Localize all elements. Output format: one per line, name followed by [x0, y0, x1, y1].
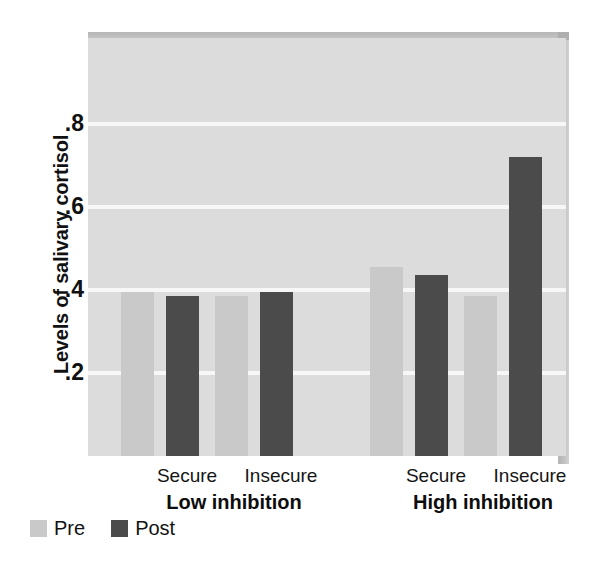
- legend-item-pre[interactable]: Pre: [30, 518, 85, 538]
- y-tick-label: .4: [44, 278, 84, 301]
- bar-high-inhibition-insecure-pre: [464, 296, 497, 456]
- y-tick-label: .6: [44, 195, 84, 218]
- legend-label: Pre: [54, 518, 85, 538]
- bar-high-inhibition-secure-post: [415, 275, 448, 456]
- plot-area: [88, 38, 566, 456]
- x-group-label-low-inhibition: Low inhibition: [124, 492, 344, 512]
- y-tick-label: .2: [44, 361, 84, 384]
- legend-swatch-post-icon: [111, 520, 128, 537]
- legend-label: Post: [135, 518, 175, 538]
- x-group-label-high-inhibition: High inhibition: [373, 492, 593, 512]
- bar-low-inhibition-insecure-pre: [215, 296, 248, 456]
- legend-swatch-pre-icon: [30, 520, 47, 537]
- y-tick-label: .8: [44, 112, 84, 135]
- x-category-label: Insecure: [460, 466, 594, 485]
- bar-high-inhibition-insecure-post: [509, 157, 542, 456]
- bar-low-inhibition-secure-post: [166, 296, 199, 456]
- gridline-p4: [88, 288, 566, 292]
- bar-low-inhibition-insecure-post: [260, 292, 293, 456]
- gridline-p6: [88, 205, 566, 209]
- bar-chart-figure: Levels of salivary cortisol .2.4.6.8 Sec…: [0, 0, 594, 580]
- bar-high-inhibition-secure-pre: [370, 267, 403, 456]
- gridline-p8: [88, 122, 566, 126]
- x-category-label: Insecure: [211, 466, 351, 485]
- legend-item-post[interactable]: Post: [111, 518, 175, 538]
- chart-legend: PrePost: [30, 518, 175, 538]
- y-axis-tick-labels: .2.4.6.8: [40, 0, 84, 580]
- bar-low-inhibition-secure-pre: [121, 292, 154, 456]
